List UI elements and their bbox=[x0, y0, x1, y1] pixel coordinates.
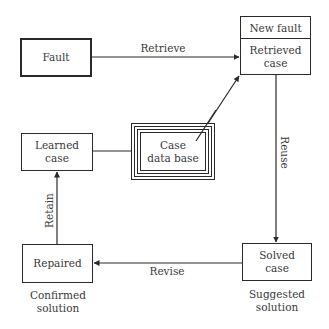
solved-case-node: Solved case bbox=[242, 243, 312, 281]
confirmed-solution-caption: Confirmed solution bbox=[17, 289, 99, 315]
learned-case-node: Learned case bbox=[21, 133, 93, 171]
confirmed-caption-line2: solution bbox=[17, 302, 99, 315]
new-fault-header: New fault bbox=[241, 17, 310, 39]
suggested-solution-caption: Suggested solution bbox=[236, 288, 318, 314]
learned-case-line1: Learned bbox=[35, 139, 79, 152]
retrieve-label: Retrieve bbox=[138, 42, 188, 55]
new-fault-node: New fault Retrieved case bbox=[240, 16, 311, 75]
solved-case-line2: case bbox=[259, 262, 295, 275]
fault-label: Fault bbox=[42, 51, 69, 64]
case-database-line2: data base bbox=[147, 152, 198, 165]
new-fault-label: New fault bbox=[249, 22, 301, 34]
retrieved-case-body: Retrieved case bbox=[241, 39, 310, 74]
repaired-label: Repaired bbox=[33, 257, 81, 270]
suggested-caption-line1: Suggested bbox=[236, 288, 318, 301]
retrieved-case-line1: Retrieved bbox=[250, 44, 302, 57]
revise-label: Revise bbox=[144, 265, 190, 278]
case-database-line1: Case bbox=[147, 139, 198, 152]
case-database-node: Case data base bbox=[140, 132, 206, 171]
learned-case-line2: case bbox=[35, 152, 79, 165]
retrieved-case-line2: case bbox=[250, 57, 302, 70]
solved-case-line1: Solved bbox=[259, 249, 295, 262]
fault-node: Fault bbox=[20, 38, 92, 77]
suggested-caption-line2: solution bbox=[236, 301, 318, 314]
reuse-label: Reuse bbox=[278, 135, 291, 171]
confirmed-caption-line1: Confirmed bbox=[17, 289, 99, 302]
retain-label: Retain bbox=[43, 192, 56, 230]
repaired-node: Repaired bbox=[22, 244, 93, 283]
